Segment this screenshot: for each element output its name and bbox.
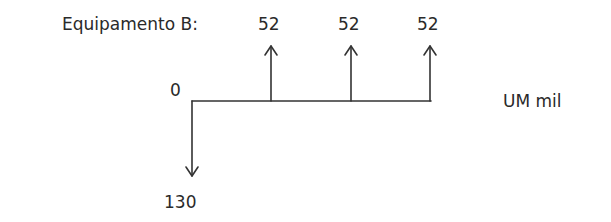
inflow-arrow-icon (265, 46, 277, 101)
outflow-arrow-icon (186, 101, 198, 176)
cash-flow-diagram (0, 0, 611, 222)
inflow-arrow-icon (345, 46, 357, 101)
inflow-arrow-icon (424, 46, 436, 101)
